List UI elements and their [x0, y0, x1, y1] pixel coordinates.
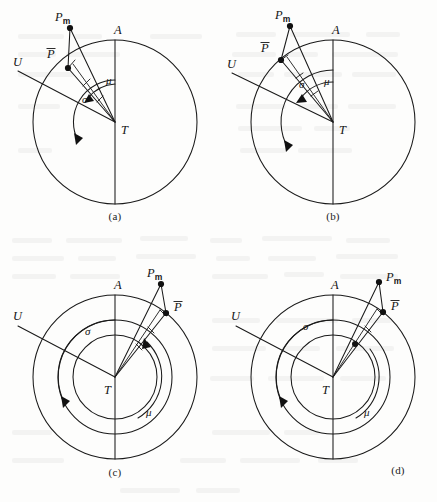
caption-a: (a)	[95, 210, 135, 222]
panel-b: Pm P A T U σ μ	[218, 0, 437, 232]
label-sigma: σ	[299, 78, 305, 90]
label-t: T	[104, 383, 112, 397]
mu-arrow-head	[142, 338, 151, 349]
label-u: U	[13, 55, 23, 69]
sigma-arrow-head	[284, 140, 293, 152]
label-sigma: σ	[82, 93, 88, 105]
pbar-point	[163, 310, 169, 316]
label-a: A	[113, 23, 122, 37]
label-pbar-group: P	[260, 41, 270, 55]
u-ray	[236, 326, 333, 377]
label-mu: μ	[363, 406, 370, 418]
figure-root: Pm P A T U σ μ (a)	[0, 0, 437, 502]
panel-d-canvas: Pm P A T U σ μ	[218, 255, 437, 485]
label-a: A	[330, 278, 339, 292]
label-pbar: P	[260, 41, 269, 55]
label-t: T	[121, 123, 129, 137]
u-ray	[18, 71, 115, 122]
label-a: A	[331, 23, 340, 37]
pbar-point	[380, 309, 386, 315]
label-pbar-group: P	[173, 300, 183, 314]
wedge-rung-2	[83, 79, 90, 86]
label-pm: Pm	[274, 8, 291, 24]
pm-point	[376, 279, 382, 285]
label-mu: μ	[105, 74, 112, 86]
t-pbar-line	[333, 312, 383, 377]
label-t: T	[339, 123, 347, 137]
panel-a: Pm P A T U σ μ	[0, 0, 225, 232]
panel-c: Pm P A T U σ μ	[0, 255, 225, 485]
pbar-point	[278, 57, 284, 63]
label-t: T	[322, 383, 330, 397]
label-u: U	[231, 309, 241, 323]
sigma-arrow-head	[74, 133, 83, 145]
panel-b-canvas: Pm P A T U σ μ	[218, 0, 437, 232]
label-a: A	[113, 278, 122, 292]
t-pbar-line	[115, 313, 166, 377]
mid-circle-marker	[352, 341, 358, 347]
u-ray	[232, 73, 333, 122]
caption-c: (c)	[95, 466, 135, 478]
pbar-pm-connector	[68, 28, 70, 68]
label-pbar: P	[46, 47, 55, 61]
u-ray	[18, 326, 115, 377]
label-sigma: σ	[85, 325, 91, 337]
pbar-pm-connector	[161, 284, 166, 313]
label-pm: Pm	[146, 266, 163, 282]
panel-a-canvas: Pm P A T U σ μ	[0, 0, 225, 232]
label-sigma: σ	[303, 320, 309, 332]
caption-b: (b)	[313, 210, 353, 222]
label-pm: Pm	[54, 10, 71, 26]
label-pm: Pm	[385, 270, 402, 286]
label-u: U	[13, 309, 23, 323]
label-pbar-group: P	[46, 47, 56, 61]
label-mu: μ	[145, 406, 152, 418]
t-pbar-line-2	[73, 64, 115, 122]
label-pbar: P	[173, 300, 182, 314]
label-u: U	[227, 57, 237, 71]
pbar-pm-connector	[379, 282, 383, 312]
mu-arrow-head	[296, 94, 307, 103]
label-pbar: P	[390, 299, 399, 313]
pbar-point	[65, 65, 71, 71]
panel-d: Pm P A T U σ μ	[218, 255, 437, 485]
caption-d: (d)	[378, 464, 418, 476]
panel-c-canvas: Pm P A T U σ μ	[0, 255, 225, 485]
label-pbar-group: P	[390, 299, 400, 313]
label-mu: μ	[323, 75, 330, 87]
